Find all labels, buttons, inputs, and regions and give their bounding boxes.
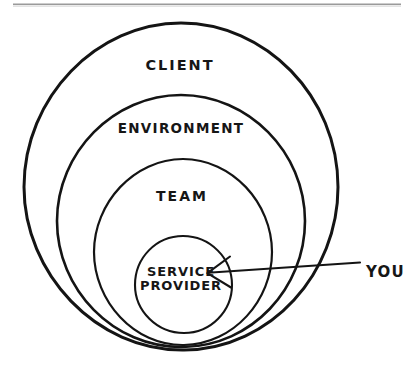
- ring-label-service-provider-line1: SERVICE: [140, 265, 222, 279]
- pointer-arrow-you: [207, 257, 360, 288]
- ring-circle-team: [94, 159, 272, 345]
- diagram-canvas: CLIENT ENVIRONMENT TEAM SERVICE PROVIDER…: [0, 0, 417, 373]
- annotation-label-you: YOU: [366, 264, 405, 280]
- ring-label-service-provider-line2: PROVIDER: [140, 279, 222, 293]
- ring-label-service-provider: SERVICE PROVIDER: [140, 265, 222, 293]
- ring-label-client: CLIENT: [145, 58, 214, 74]
- ring-label-team: TEAM: [156, 189, 208, 204]
- ring-label-environment: ENVIRONMENT: [118, 121, 245, 136]
- scan-artifact-line: [13, 4, 401, 6]
- concentric-circles-diagram: [0, 0, 417, 373]
